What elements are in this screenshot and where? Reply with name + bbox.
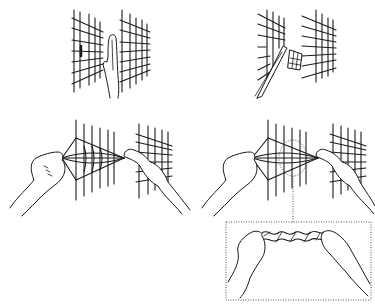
illustration-canvas <box>0 0 375 305</box>
callout-right-hand <box>321 231 370 296</box>
panel-a <box>72 10 150 98</box>
callout-detail-box <box>226 222 371 300</box>
panel-d <box>202 120 375 222</box>
right-hand-d <box>316 149 375 214</box>
mesh-left-verticals <box>76 120 114 200</box>
panel-b <box>255 10 336 98</box>
right-grid-sheet-b <box>302 10 336 82</box>
left-hand-c <box>10 152 65 216</box>
right-hand-c <box>124 149 190 214</box>
mesh-stretched-lines <box>62 138 124 180</box>
twisted-mesh-strip <box>262 231 324 234</box>
right-grid-sheet <box>120 10 150 92</box>
panel-c <box>10 120 190 216</box>
vertical-hand <box>103 35 119 98</box>
mesh-stretched-lines-d <box>252 138 318 180</box>
callout-left-hand <box>228 231 265 298</box>
left-grid-sheet <box>72 10 103 92</box>
cutting-tool <box>257 46 287 98</box>
tool-edge <box>255 52 282 96</box>
mesh-left-verticals-d <box>268 120 306 200</box>
twisted-mesh-strip-2 <box>262 238 324 241</box>
left-hand-d <box>202 152 257 216</box>
